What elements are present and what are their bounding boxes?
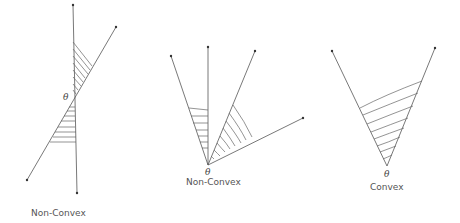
ray-1 [171,56,208,165]
lower-hatching [50,107,76,142]
angle-label: θ [205,167,211,177]
angle-label: θ [63,92,69,102]
caption: Non-Convex [186,177,241,187]
caption: Convex [370,182,404,192]
middle-diagram: θ Non-Convex [170,46,304,187]
hatching [360,81,422,159]
arrow-tip-icon [254,50,256,52]
caption: Non-Convex [31,208,86,218]
arrow-tip-icon [115,26,117,28]
left-hatching [189,108,208,148]
upper-hatching [73,42,92,94]
arrow-tip-icon [207,46,209,48]
arrow-tip-icon [72,4,74,6]
right-hatching [211,105,252,159]
arrow-tip-icon [434,47,436,49]
diagonal-ray [27,27,116,180]
arrow-tip-icon [26,179,28,181]
arrow-tip-icon [331,50,333,52]
ray-4 [208,118,303,165]
arrow-tip-icon [170,55,172,57]
convexity-diagrams: θ Non-Convex θ [0,0,460,223]
angle-label: θ [384,169,390,179]
right-diagram: θ Convex [331,47,436,192]
ray-3 [208,51,255,165]
vertical-ray [73,5,77,193]
left-diagram: θ Non-Convex [26,4,117,218]
arrow-tip-icon [302,117,304,119]
arrow-tip-icon [76,192,78,194]
